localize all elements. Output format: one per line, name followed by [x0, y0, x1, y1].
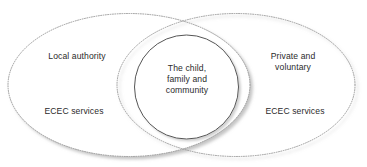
venn-diagram: Local authority ECEC services The child,… — [0, 0, 367, 167]
right-ellipse-top-label: Private and voluntary — [243, 51, 343, 73]
right-ellipse-bottom-label: ECEC services — [240, 106, 350, 117]
center-circle-label: The child, family and community — [143, 63, 231, 96]
left-ellipse-bottom-label: ECEC services — [19, 106, 129, 117]
left-ellipse-top-label: Local authority — [22, 51, 132, 62]
